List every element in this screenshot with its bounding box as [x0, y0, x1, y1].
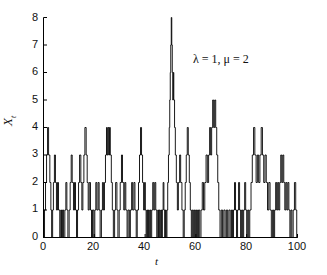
- y-axis-label-subscript: t: [9, 116, 18, 118]
- chart-plot-area: [0, 0, 327, 275]
- ytick-label-5: 5: [24, 94, 38, 105]
- ytick-label-1: 1: [24, 203, 38, 214]
- ytick-label-8: 8: [24, 12, 38, 23]
- ytick-label-2: 2: [24, 176, 38, 187]
- x-axis-label: t: [155, 255, 158, 267]
- y-axis-label: Xt: [0, 116, 18, 126]
- ytick-label-6: 6: [24, 66, 38, 77]
- xtick-label-100: 100: [282, 241, 312, 252]
- chart-figure: 8 7 6 5 4 3 2 1 0 0 20 40 60 80 100 t Xt…: [0, 0, 327, 275]
- xtick-label-80: 80: [231, 241, 261, 252]
- parameter-annotation: λ = 1, μ = 2: [193, 52, 249, 67]
- ytick-label-7: 7: [24, 39, 38, 50]
- xtick-label-20: 20: [78, 241, 108, 252]
- ytick-label-3: 3: [24, 148, 38, 159]
- step-series-line: [44, 18, 298, 238]
- xtick-label-40: 40: [129, 241, 159, 252]
- xtick-label-60: 60: [180, 241, 210, 252]
- xtick-label-0: 0: [28, 241, 58, 252]
- ytick-label-4: 4: [24, 121, 38, 132]
- y-axis-label-main: X: [0, 118, 15, 126]
